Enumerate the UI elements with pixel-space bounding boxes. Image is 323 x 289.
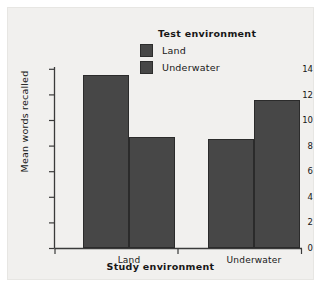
chart-figure: Mean words recalled 0 2 4 6 8 10 12 14 xyxy=(8,8,313,279)
legend-title: Test environment xyxy=(158,28,290,39)
x-axis-label: Study environment xyxy=(8,261,313,272)
legend-entry-land: Land xyxy=(140,44,290,57)
bar-underwater-study-land-test xyxy=(208,139,254,248)
bar-land-study-land-test xyxy=(83,75,129,248)
legend-swatch-underwater xyxy=(140,61,153,74)
legend-label-underwater: Underwater xyxy=(162,62,220,73)
bar-land-study-underwater-test xyxy=(129,137,175,249)
bar-underwater-study-underwater-test xyxy=(254,100,300,249)
legend-swatch-land xyxy=(140,44,153,57)
legend-entry-underwater: Underwater xyxy=(140,61,290,74)
legend-label-land: Land xyxy=(162,45,186,56)
legend: Test environment Land Underwater xyxy=(140,28,290,78)
